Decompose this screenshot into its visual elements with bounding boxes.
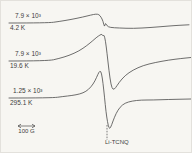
gain-label-3: 1.25 × 10³ (13, 88, 42, 95)
spectrum-trace-295.1K (9, 71, 191, 128)
epr-spectra-figure: 7.9 × 10³ 4.2 K 7.9 × 10³ 19.6 K 1.25 × … (0, 0, 192, 153)
gain-label-1: 7.9 × 10³ (15, 13, 41, 20)
sample-label: Li-TCNQ (105, 139, 129, 145)
gain-label-2: 7.9 × 10³ (15, 51, 41, 58)
temperature-label-1: 4.2 K (10, 25, 25, 32)
spectrum-trace-19.6K (9, 34, 191, 89)
temperature-label-3: 295.1 K (10, 100, 32, 107)
scale-bar-label: 100 G (15, 128, 38, 134)
temperature-label-2: 19.6 K (10, 63, 29, 70)
